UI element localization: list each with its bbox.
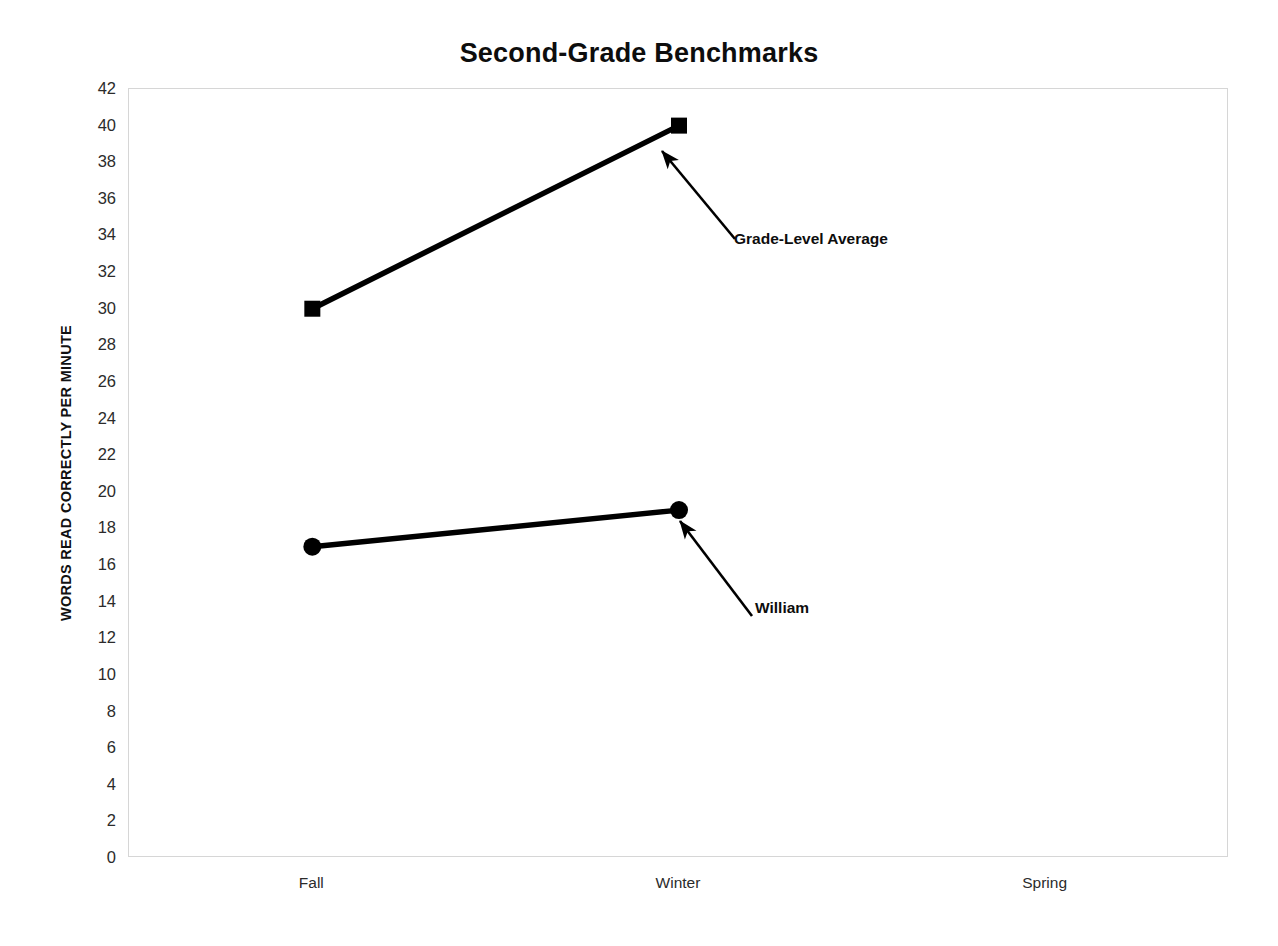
y-axis-tick-labels: 424038363432302826242220181614121086420 (66, 88, 116, 857)
data-point-marker-circle (670, 501, 688, 519)
annotation-arrow-grade-level-average (662, 151, 735, 239)
y-tick-label: 24 (70, 410, 116, 427)
y-tick-label: 0 (70, 849, 116, 866)
plot-area (128, 88, 1228, 857)
y-tick-label: 36 (70, 190, 116, 207)
series-line-william (312, 510, 679, 547)
y-tick-label: 42 (70, 80, 116, 97)
y-tick-label: 10 (70, 666, 116, 683)
y-tick-label: 30 (70, 300, 116, 317)
annotation-label-william: William (755, 599, 809, 617)
y-tick-label: 14 (70, 593, 116, 610)
y-tick-label: 22 (70, 446, 116, 463)
y-tick-label: 26 (70, 373, 116, 390)
x-tick-label: Fall (299, 874, 324, 892)
data-point-marker-square (671, 118, 687, 134)
y-tick-label: 38 (70, 153, 116, 170)
y-tick-label: 18 (70, 519, 116, 536)
y-tick-label: 16 (70, 556, 116, 573)
series-line-grade-level-average (312, 126, 679, 309)
y-tick-label: 40 (70, 117, 116, 134)
y-tick-label: 32 (70, 263, 116, 280)
y-tick-label: 28 (70, 336, 116, 353)
x-tick-label: Winter (656, 874, 701, 892)
chart-title: Second-Grade Benchmarks (0, 38, 1278, 69)
y-tick-label: 12 (70, 629, 116, 646)
annotation-label-grade-level-average: Grade-Level Average (734, 230, 888, 248)
y-tick-label: 4 (70, 776, 116, 793)
data-point-marker-square (304, 301, 320, 317)
y-tick-label: 2 (70, 812, 116, 829)
chart-figure: Second-Grade Benchmarks WORDS READ CORRE… (0, 0, 1278, 946)
plot-canvas (129, 89, 1229, 858)
x-axis-tick-labels: FallWinterSpring (128, 874, 1228, 904)
y-tick-label: 20 (70, 483, 116, 500)
y-tick-label: 34 (70, 226, 116, 243)
data-point-marker-circle (303, 538, 321, 556)
y-tick-label: 6 (70, 739, 116, 756)
y-tick-label: 8 (70, 703, 116, 720)
annotation-arrow-william (680, 521, 752, 616)
x-tick-label: Spring (1022, 874, 1067, 892)
